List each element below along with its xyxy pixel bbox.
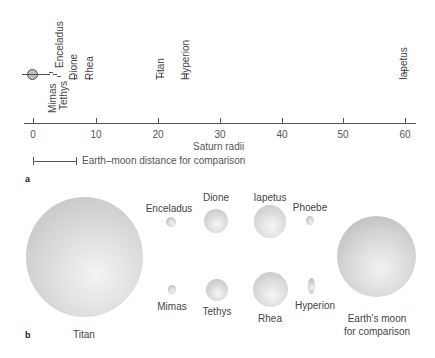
tick-20 xyxy=(158,118,159,123)
enceladus-label: Enceladus xyxy=(146,203,193,214)
enceladus-sphere xyxy=(166,217,176,227)
tick-label-20: 20 xyxy=(152,129,163,140)
dash-titan xyxy=(161,73,162,78)
dash-dione xyxy=(74,75,75,80)
dione-label: Dione xyxy=(203,192,229,203)
tethys-sphere xyxy=(206,279,228,301)
label-tethys: Tethys xyxy=(58,81,69,110)
tick-10 xyxy=(96,118,97,123)
label-mimas: Mimas xyxy=(47,84,58,113)
tick-label-60: 60 xyxy=(399,129,410,140)
tick-label-50: 50 xyxy=(337,129,348,140)
tick-label-10: 10 xyxy=(90,129,101,140)
earth-moon-bar xyxy=(33,161,77,162)
saturn-line xyxy=(22,74,50,75)
titan-sphere xyxy=(26,197,143,317)
phoebe-label: Phoebe xyxy=(293,202,327,213)
label-iapetus: Iapetus xyxy=(398,47,409,80)
dash-iapetus xyxy=(404,69,405,74)
tethys-label: Tethys xyxy=(203,306,232,317)
tick-label-40: 40 xyxy=(276,129,287,140)
mimas-label: Mimas xyxy=(157,301,186,312)
marker-enceladus xyxy=(53,74,57,75)
iapetus-label: Iapetus xyxy=(254,192,287,203)
dash-rhea xyxy=(89,75,90,80)
panel-a-label: a xyxy=(25,174,30,184)
tick-label-0: 0 xyxy=(30,129,36,140)
earth-moon-sphere xyxy=(337,216,416,297)
earth-moon-label-line2: for comparison xyxy=(344,326,410,337)
marker-tethys xyxy=(57,76,61,77)
tick-40 xyxy=(282,118,283,123)
tick-0 xyxy=(33,118,34,123)
dione-sphere xyxy=(204,209,228,233)
tick-50 xyxy=(343,118,344,123)
hyperion-sphere xyxy=(308,278,315,294)
marker-mimas xyxy=(49,72,53,73)
earth-moon-bar-start xyxy=(33,157,34,165)
tick-30 xyxy=(220,118,221,123)
panel-b-label: b xyxy=(25,330,31,340)
earth-moon-label-line1: Earth's moon xyxy=(348,313,407,324)
tick-60 xyxy=(405,118,406,123)
phoebe-sphere xyxy=(306,216,314,225)
label-enceladus: Enceladus xyxy=(54,21,65,68)
tick-label-30: 30 xyxy=(214,129,225,140)
dash-hyperion xyxy=(186,73,187,78)
earth-moon-bar-end xyxy=(76,157,77,165)
rhea-sphere xyxy=(253,272,288,307)
hyperion-label: Hyperion xyxy=(295,300,335,311)
axis-label: Saturn radii xyxy=(193,141,244,152)
x-axis xyxy=(24,123,416,124)
rhea-label: Rhea xyxy=(258,313,282,324)
mimas-sphere xyxy=(168,285,176,294)
iapetus-sphere xyxy=(254,205,286,238)
comparison-label: Earth–moon distance for comparison xyxy=(82,155,245,166)
titan-label: Titan xyxy=(73,329,95,340)
